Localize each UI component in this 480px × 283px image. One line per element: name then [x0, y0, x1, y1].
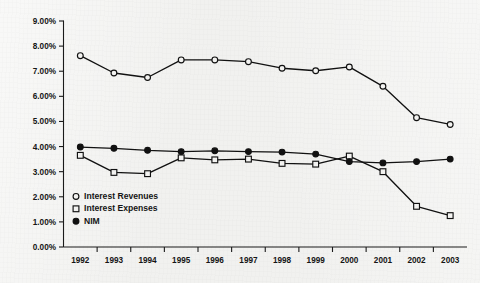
x-axis-tick-marks — [97, 247, 433, 252]
y-tick-label: 1.00% — [33, 218, 57, 227]
y-tick-label: 7.00% — [33, 67, 57, 76]
data-point — [279, 149, 285, 155]
y-tick-label: 6.00% — [33, 92, 57, 101]
data-point — [346, 64, 352, 70]
y-axis-tick-labels: 0.00%1.00%2.00%3.00%4.00%5.00%6.00%7.00%… — [33, 17, 57, 252]
data-point — [346, 153, 352, 159]
legend-label: NIM — [84, 216, 100, 226]
data-point — [111, 170, 117, 176]
x-tick-label: 1998 — [273, 256, 292, 265]
data-point — [178, 149, 184, 155]
data-point — [212, 148, 218, 154]
legend-item: Interest Revenues — [73, 191, 158, 201]
y-axis-tick-marks — [59, 21, 64, 247]
x-tick-label: 1994 — [138, 256, 157, 265]
series-line-interest-revenues — [80, 56, 450, 125]
chart-legend: Interest RevenuesInterest ExpensesNIM — [73, 191, 158, 226]
x-tick-label: 2003 — [441, 256, 460, 265]
y-tick-label: 9.00% — [33, 17, 57, 26]
x-tick-label: 1995 — [172, 256, 191, 265]
legend-item: Interest Expenses — [73, 203, 158, 213]
series-line-nim — [80, 147, 450, 163]
y-tick-label: 4.00% — [33, 143, 57, 152]
data-point — [246, 156, 252, 162]
x-tick-label: 1993 — [105, 256, 124, 265]
data-point — [145, 147, 151, 153]
x-tick-label: 1992 — [71, 256, 90, 265]
y-tick-label: 5.00% — [33, 117, 57, 126]
y-tick-label: 3.00% — [33, 168, 57, 177]
legend-marker-open-square-icon — [73, 206, 79, 212]
data-point — [111, 145, 117, 151]
legend-item: NIM — [73, 216, 100, 226]
data-point — [178, 57, 184, 63]
data-point — [111, 70, 117, 76]
data-point — [279, 65, 285, 71]
legend-label: Interest Revenues — [84, 191, 158, 201]
legend-marker-open-circle-icon — [73, 194, 79, 200]
y-tick-label: 0.00% — [33, 243, 57, 252]
data-point — [414, 115, 420, 121]
data-point — [447, 213, 453, 219]
y-tick-label: 8.00% — [33, 42, 57, 51]
data-point — [145, 171, 151, 177]
data-point — [212, 157, 218, 163]
data-point — [313, 161, 319, 167]
data-point — [346, 159, 352, 165]
x-tick-label: 1999 — [307, 256, 326, 265]
legend-marker-filled-circle-icon — [73, 218, 79, 224]
data-point — [77, 144, 83, 150]
line-chart: 0.00%1.00%2.00%3.00%4.00%5.00%6.00%7.00%… — [0, 0, 480, 283]
data-point — [447, 156, 453, 162]
data-point — [380, 169, 386, 175]
x-axis-tick-labels: 1992199319941995199619971998199920002001… — [71, 256, 460, 265]
data-point — [414, 203, 420, 209]
series-markers-interest-revenues — [77, 53, 453, 128]
data-point — [279, 160, 285, 166]
x-tick-label: 2000 — [340, 256, 359, 265]
data-point — [313, 151, 319, 157]
data-point — [145, 75, 151, 81]
data-point — [77, 152, 83, 158]
y-tick-label: 2.00% — [33, 193, 57, 202]
data-point — [178, 155, 184, 161]
data-point — [212, 57, 218, 63]
data-point — [447, 122, 453, 128]
data-point — [77, 53, 83, 59]
chart-container: 0.00%1.00%2.00%3.00%4.00%5.00%6.00%7.00%… — [0, 0, 480, 283]
data-point — [246, 59, 252, 65]
data-point — [313, 68, 319, 74]
data-point — [246, 149, 252, 155]
x-tick-label: 2002 — [407, 256, 426, 265]
x-tick-label: 2001 — [374, 256, 393, 265]
data-point — [380, 83, 386, 89]
data-point — [380, 160, 386, 166]
x-tick-label: 1997 — [239, 256, 258, 265]
legend-label: Interest Expenses — [84, 203, 158, 213]
data-point — [414, 159, 420, 165]
x-tick-label: 1996 — [206, 256, 225, 265]
